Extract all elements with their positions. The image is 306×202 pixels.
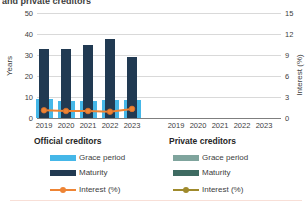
left-axis-tick-label: 0 [0, 114, 33, 123]
legend-label: Interest (%) [79, 185, 120, 194]
right-axis-tick-label: 12 [285, 30, 305, 39]
bar-maturity-2022 [105, 39, 115, 118]
legend-label: Interest (%) [202, 185, 243, 194]
maturity-swatch [50, 170, 76, 176]
maturity-swatch [173, 170, 199, 176]
legend-item-private-grace: Grace period [173, 153, 248, 162]
bar-maturity-2023 [127, 57, 137, 118]
figure-title-fragment: and private creditors [2, 0, 91, 6]
x-label-official-creditors-2023: 2023 [121, 121, 143, 130]
artifact-line [10, 200, 302, 201]
bar-maturity-2021 [83, 45, 93, 119]
gridline [37, 97, 281, 98]
legend-label: Maturity [79, 168, 107, 177]
right-axis-tick-label: 0 [285, 114, 305, 123]
interest-line-swatch [50, 189, 76, 191]
x-label-private-creditors-2023: 2023 [253, 121, 275, 130]
left-axis-tick-label: 20 [0, 72, 33, 81]
gridline [37, 55, 281, 56]
legend-item-official-grace: Grace period [50, 153, 125, 162]
group-header-private: Private creditors [169, 136, 236, 146]
left-axis-tick-label: 10 [0, 93, 33, 102]
x-label-private-creditors-2019: 2019 [165, 121, 187, 130]
right-axis-tick-label: 3 [285, 93, 305, 102]
x-label-official-creditors-2022: 2022 [99, 121, 121, 130]
grace-period-swatch [50, 155, 76, 161]
x-label-private-creditors-2020: 2020 [187, 121, 209, 130]
bar-maturity-2019 [39, 49, 49, 118]
left-axis-tick-label: 50 [0, 9, 33, 18]
x-label-private-creditors-2021: 2021 [209, 121, 231, 130]
legend-label: Maturity [202, 168, 230, 177]
right-axis-tick-label: 15 [285, 9, 305, 18]
legend-label: Grace period [79, 153, 125, 162]
x-label-official-creditors-2019: 2019 [33, 121, 55, 130]
right-axis-tick-label: 9 [285, 51, 305, 60]
figure-title-text: and private creditors [2, 0, 91, 6]
figure: and private creditors Years Interest (%)… [0, 0, 306, 202]
interest-marker-icon [183, 187, 189, 193]
x-label-official-creditors-2021: 2021 [77, 121, 99, 130]
interest-line-swatch [173, 189, 199, 191]
gridline [37, 13, 281, 14]
group-header-official: Official creditors [34, 136, 102, 146]
bar-maturity-2020 [61, 49, 71, 118]
gridline [37, 76, 281, 77]
grace-period-swatch [173, 155, 199, 161]
left-axis-tick-label: 30 [0, 51, 33, 60]
x-label-official-creditors-2020: 2020 [55, 121, 77, 130]
interest-marker-icon [60, 187, 66, 193]
legend-label: Grace period [202, 153, 248, 162]
right-axis-tick-label: 6 [285, 72, 305, 81]
legend-item-official-interest: Interest (%) [50, 185, 120, 194]
legend-item-official-maturity: Maturity [50, 168, 107, 177]
left-axis-tick-label: 40 [0, 30, 33, 39]
gridline [37, 34, 281, 35]
x-label-private-creditors-2022: 2022 [231, 121, 253, 130]
legend-item-private-maturity: Maturity [173, 168, 230, 177]
legend-item-private-interest: Interest (%) [173, 185, 243, 194]
